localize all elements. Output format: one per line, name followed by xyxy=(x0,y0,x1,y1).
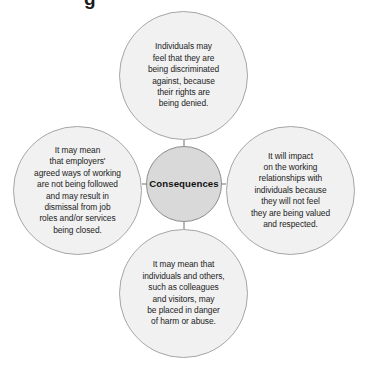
node-top-discrimination: Individuals may feel that they are being… xyxy=(119,11,248,140)
node-bottom-label: It may mean that individuals and others,… xyxy=(136,259,230,327)
consequences-spoke-diagram: g Individuals may feel that they are bei… xyxy=(0,0,366,369)
node-left-label: It may mean that employers' agreed ways … xyxy=(28,145,127,236)
node-right-working-relationships: It will impact on the working relationsh… xyxy=(226,126,355,255)
node-bottom-danger-of-harm: It may mean that individuals and others,… xyxy=(119,229,248,358)
node-left-employer-ways-of-working: It may mean that employers' agreed ways … xyxy=(13,126,142,255)
node-center-label: Consequences xyxy=(149,178,218,190)
node-right-label: It will impact on the working relationsh… xyxy=(245,151,336,231)
node-center-consequences: Consequences xyxy=(146,146,222,222)
node-top-label: Individuals may feel that they are being… xyxy=(142,41,225,109)
